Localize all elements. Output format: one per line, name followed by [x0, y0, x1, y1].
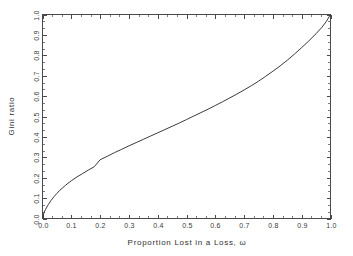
plot-frame	[43, 15, 331, 219]
y-tick-label: 0.5	[33, 112, 40, 122]
x-tick-label: 0.9	[297, 222, 307, 229]
x-tick-label: 0.3	[124, 222, 134, 229]
y-tick-label: 0.7	[33, 71, 40, 81]
x-axis-tick-labels: 0.00.10.20.30.40.50.60.70.80.91.0	[38, 222, 336, 229]
data-series-group	[43, 15, 331, 219]
x-tick-label: 0.6	[210, 222, 220, 229]
y-tick-label: 0.2	[33, 173, 40, 183]
x-axis-title: Proportion Lost in a Loss, ω	[128, 238, 247, 247]
x-axis-major-ticks	[44, 15, 332, 219]
y-axis-major-ticks	[43, 16, 331, 220]
y-axis-tick-labels: 0.00.10.20.30.40.50.60.70.80.91.0	[33, 10, 40, 224]
gini-ratio-line-chart: 0.00.10.20.30.40.50.60.70.80.91.0 0.00.1…	[0, 0, 353, 256]
x-tick-label: 0.5	[182, 222, 192, 229]
x-tick-label: 0.4	[153, 222, 163, 229]
y-axis-title: Gini ratio	[7, 96, 16, 135]
chart-figure: 0.00.10.20.30.40.50.60.70.80.91.0 0.00.1…	[0, 0, 353, 256]
x-tick-label: 0.2	[95, 222, 105, 229]
x-tick-label: 1.0	[326, 222, 336, 229]
y-tick-label: 0.8	[33, 50, 40, 60]
x-axis-minor-ticks	[53, 15, 322, 219]
y-tick-label: 0.1	[33, 193, 40, 203]
x-tick-label: 0.8	[268, 222, 278, 229]
x-tick-label: 0.7	[239, 222, 249, 229]
y-tick-label: 1.0	[33, 10, 40, 20]
y-axis-minor-ticks	[43, 22, 331, 213]
y-tick-label: 0.6	[33, 91, 40, 101]
y-tick-label: 0.0	[33, 214, 40, 224]
y-tick-label: 0.9	[33, 30, 40, 40]
y-tick-label: 0.3	[33, 152, 40, 162]
y-tick-label: 0.4	[33, 132, 40, 142]
x-tick-label: 0.1	[66, 222, 76, 229]
gini-ratio-curve	[43, 15, 331, 219]
